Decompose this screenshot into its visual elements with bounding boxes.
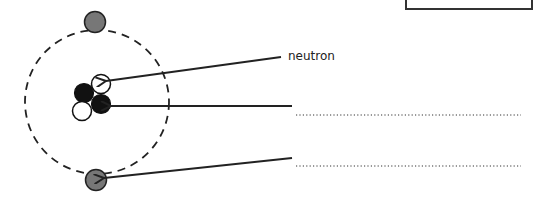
atom-diagram	[0, 0, 535, 199]
nucleus-proton-1	[75, 84, 94, 103]
nucleus-neutron-2	[73, 102, 92, 121]
label-neutron: neutron	[288, 50, 335, 62]
electron-bottom	[86, 170, 107, 191]
nucleus-neutron-1	[92, 75, 111, 94]
arrow-neutron	[106, 57, 281, 81]
arrow-electron	[104, 158, 292, 178]
electron-top	[85, 12, 106, 33]
nucleus-proton-2	[92, 95, 111, 114]
